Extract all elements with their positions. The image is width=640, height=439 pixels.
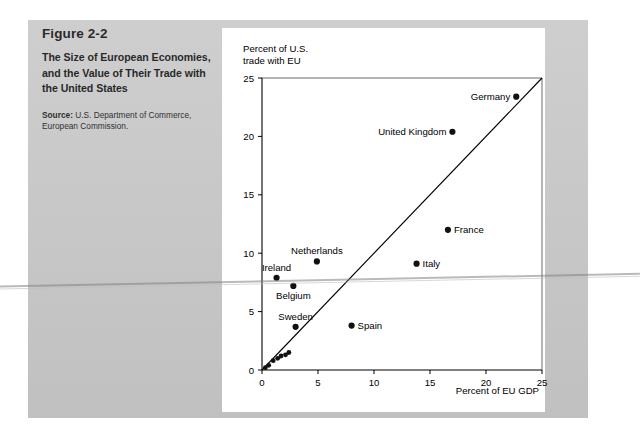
data-point-label: Belgium (276, 290, 311, 301)
data-point (314, 258, 320, 264)
data-point-label: United Kingdom (378, 126, 446, 137)
y-tick-label: 0 (249, 365, 254, 376)
data-point (290, 283, 296, 289)
y-tick-label: 25 (243, 73, 254, 84)
figure-source-label: Source: (42, 110, 73, 120)
y-tick-label: 20 (243, 131, 254, 142)
x-axis-title: Percent of EU GDP (456, 385, 539, 396)
x-tick-label: 10 (369, 377, 380, 388)
y-tick-label: 15 (243, 189, 254, 200)
data-point (413, 261, 419, 267)
y-tick-label: 5 (249, 306, 254, 317)
data-point (293, 324, 299, 330)
reference-line (262, 78, 542, 370)
x-tick-label: 15 (425, 377, 436, 388)
data-point-label: Spain (358, 320, 383, 331)
scatter-plot: 05101520250510152025 GermanyUnited Kingd… (222, 28, 545, 412)
chart-card: Percent of U.S. trade with EU 0510152025… (222, 28, 545, 412)
data-point (449, 129, 455, 135)
data-point (349, 323, 355, 329)
data-point-label: Italy (423, 258, 441, 269)
figure-source: Source: U.S. Department of Commerce, Eur… (42, 110, 218, 133)
x-tick-label: 5 (315, 377, 320, 388)
data-point (263, 365, 268, 370)
y-tick-label: 10 (243, 248, 254, 259)
figure-number: Figure 2-2 (42, 26, 218, 41)
data-point (513, 94, 519, 100)
data-point (445, 227, 451, 233)
data-point-labels: GermanyUnited KingdomFranceItalyNetherla… (262, 91, 511, 331)
data-point-label: Sweden (278, 311, 313, 322)
data-point-label: Ireland (262, 262, 291, 273)
data-point-label: France (454, 224, 484, 235)
reference-line-45deg (262, 78, 542, 370)
data-point (283, 352, 288, 357)
figure-caption-block: Figure 2-2 The Size of European Economie… (42, 26, 218, 133)
x-tick-label: 0 (259, 377, 264, 388)
data-point-label: Netherlands (291, 245, 343, 256)
data-point-label: Germany (471, 91, 511, 102)
data-point (273, 275, 279, 281)
data-point (275, 356, 280, 361)
data-point (271, 358, 276, 363)
figure-title: The Size of European Economies, and the … (42, 50, 218, 97)
